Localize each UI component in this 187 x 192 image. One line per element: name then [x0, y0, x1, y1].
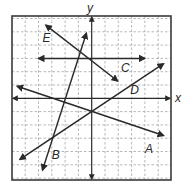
line-label-d: D	[130, 83, 139, 97]
y-axis-label: y	[86, 1, 94, 15]
line-label-c: C	[121, 61, 130, 75]
line-label-b: B	[52, 148, 60, 162]
line-labels: A B C D E	[42, 31, 152, 162]
line-label-a: A	[144, 142, 153, 156]
x-axis-label: x	[174, 91, 182, 105]
line-series	[17, 25, 163, 170]
line-label-e: E	[42, 31, 51, 45]
line-b	[42, 33, 86, 170]
coordinate-plane-diagram: x y A B C D E	[0, 0, 187, 192]
line-a	[17, 86, 163, 135]
line-e	[46, 25, 118, 81]
